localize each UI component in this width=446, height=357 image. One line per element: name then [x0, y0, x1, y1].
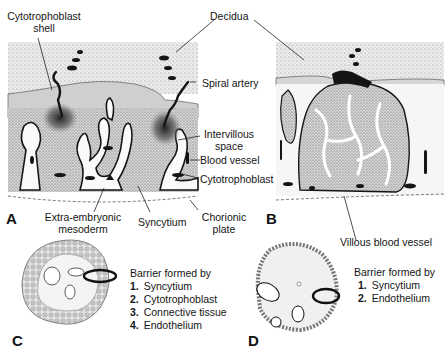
label-cytotrophoblast: Cytotrophoblast	[200, 173, 274, 185]
panel-letter-d: D	[248, 332, 259, 349]
barrier-item: 1. Syncytium	[130, 280, 227, 293]
panel-d-drawing	[254, 244, 339, 330]
panel-letter-c: C	[12, 332, 23, 349]
label-line: space	[198, 140, 260, 152]
item-number: 2.	[358, 292, 367, 304]
panel-a-drawing	[8, 42, 198, 202]
item-label: Syncytium	[144, 280, 192, 292]
barrier-item: 4. Endothelium	[130, 319, 227, 332]
label-extra-embryonic-mesoderm: Extra-embryonic mesoderm	[38, 211, 128, 235]
label-line: Chorionic	[196, 211, 252, 223]
label-line: Extra-embryonic	[38, 211, 128, 223]
item-number: 3.	[130, 306, 139, 318]
barrier-title-d: Barrier formed by	[354, 266, 435, 279]
label-decidua: Decidua	[210, 10, 249, 22]
label-line: plate	[196, 223, 252, 235]
barrier-list-d: Barrier formed by 1. Syncytium 2. Endoth…	[354, 266, 435, 305]
item-label: Endothelium	[372, 292, 430, 304]
barrier-item: 2. Cytotrophoblast	[130, 293, 227, 306]
item-label: Connective tissue	[144, 306, 227, 318]
label-line: Intervillous	[198, 128, 260, 140]
label-intervillous-space: Intervillous space	[198, 128, 260, 152]
panel-c-drawing	[22, 240, 116, 324]
label-chorionic-plate: Chorionic plate	[196, 211, 252, 235]
label-villous-blood-vessel: Villous blood vessel	[340, 236, 432, 248]
item-label: Syncytium	[372, 279, 420, 291]
panel-letter-b: B	[266, 210, 277, 227]
item-label: Endothelium	[144, 319, 202, 331]
label-line: Cytotrophoblast	[4, 10, 84, 22]
item-number: 4.	[130, 319, 139, 331]
item-label: Cytotrophoblast	[144, 293, 218, 305]
panel-b-drawing	[276, 42, 444, 200]
barrier-item: 3. Connective tissue	[130, 306, 227, 319]
item-number: 1.	[358, 279, 367, 291]
barrier-title-c: Barrier formed by	[130, 267, 227, 280]
label-blood-vessel: Blood vessel	[200, 154, 260, 166]
label-line: mesoderm	[38, 223, 128, 235]
barrier-item: 2. Endothelium	[354, 292, 435, 305]
item-number: 1.	[130, 280, 139, 292]
panel-letter-a: A	[6, 210, 17, 227]
barrier-list-c: Barrier formed by 1. Syncytium 2. Cytotr…	[130, 267, 227, 332]
label-line: shell	[4, 22, 84, 34]
label-spiral-artery: Spiral artery	[202, 77, 259, 89]
label-cytotrophoblast-shell: Cytotrophoblast shell	[4, 10, 84, 34]
label-syncytium: Syncytium	[138, 216, 186, 228]
barrier-item: 1. Syncytium	[354, 279, 435, 292]
item-number: 2.	[130, 293, 139, 305]
